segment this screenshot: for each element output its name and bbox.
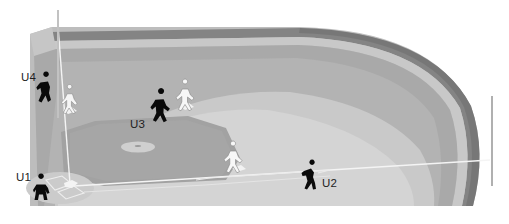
umpire-label-u1: U1 xyxy=(16,172,31,184)
baseball-field-diagram: U1 U2 U3 U4 xyxy=(0,0,509,224)
umpire-label-u3: U3 xyxy=(130,119,145,131)
umpire-label-u4: U4 xyxy=(21,72,36,84)
umpire-label-u2: U2 xyxy=(322,178,337,190)
infield-dirt-highlight xyxy=(70,120,234,181)
field-illustration xyxy=(0,0,509,224)
infield-dirt-group xyxy=(61,116,240,186)
pitchers-rubber xyxy=(135,145,141,147)
